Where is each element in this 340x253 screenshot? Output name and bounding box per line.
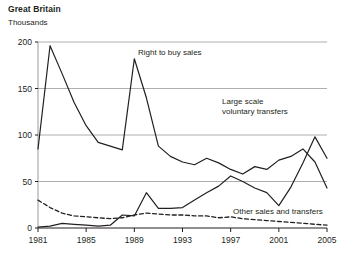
y-tick-label-0: 0	[27, 223, 32, 233]
x-tick-label-2001: 2001	[269, 235, 288, 245]
y-tick-label-50: 50	[23, 177, 33, 187]
y-tick-label-100: 100	[18, 130, 32, 140]
lsvt-label-line2: voluntary transfers	[222, 107, 288, 116]
chart-figure: Great Britain Thousands 0501001502001981…	[0, 0, 340, 253]
x-tick-label-1993: 1993	[173, 235, 192, 245]
x-tick-label-1985: 1985	[77, 235, 96, 245]
y-tick-label-200: 200	[18, 37, 32, 47]
other-sales-and-transfers-label: Other sales and transfers	[233, 207, 323, 217]
x-tick-label-2005: 2005	[318, 235, 337, 245]
series-line-0	[38, 46, 327, 188]
large-scale-voluntary-transfers-label: Large scale voluntary transfers	[222, 97, 288, 116]
x-tick-label-1981: 1981	[29, 235, 48, 245]
y-tick-label-150: 150	[18, 84, 32, 94]
x-tick-label-1989: 1989	[125, 235, 144, 245]
lsvt-label-line1: Large scale	[222, 97, 263, 106]
right-to-buy-sales-label: Right to buy sales	[138, 48, 202, 58]
x-tick-label-1997: 1997	[221, 235, 240, 245]
